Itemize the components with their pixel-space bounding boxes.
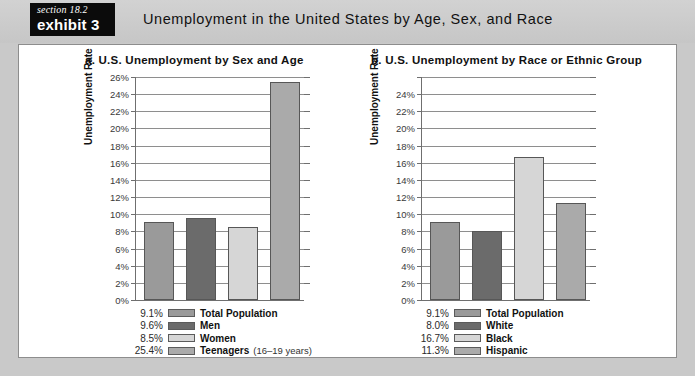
axis-tick-right <box>590 283 596 284</box>
legend-label: Women <box>200 333 236 344</box>
chart-b-y-axis-label: Unemployment Rate <box>369 131 380 145</box>
legend-item: 25.4%Teenagers(16–19 years) <box>123 345 312 357</box>
axis-tick-right <box>304 214 310 215</box>
gridline <box>422 111 590 112</box>
legend-value: 9.1% <box>123 308 163 319</box>
y-axis-tick-label: 6% <box>115 243 129 254</box>
page-title: Unemployment in the United States by Age… <box>143 11 553 27</box>
y-axis-tick-label: 14% <box>110 174 129 185</box>
legend-swatch <box>168 322 195 330</box>
axis-tick-right <box>590 77 596 78</box>
legend-item: 9.1%Total Population <box>123 307 312 319</box>
legend-swatch <box>168 309 195 317</box>
gridline <box>422 146 590 147</box>
y-axis-tick-label: 24% <box>396 89 415 100</box>
axis-tick-right <box>590 180 596 181</box>
axis-tick <box>417 146 422 147</box>
legend-value: 11.3% <box>409 345 449 356</box>
axis-tick-right <box>590 231 596 232</box>
chart-a: a. U.S. Unemployment by Sex and Age Unem… <box>63 45 393 357</box>
axis-tick <box>417 266 422 267</box>
axis-tick-right <box>304 94 310 95</box>
axis-tick <box>131 94 136 95</box>
gridline <box>422 77 590 78</box>
axis-tick-right <box>304 163 310 164</box>
legend-note: (16–19 years) <box>253 345 312 356</box>
y-axis-tick-label: 2% <box>401 277 415 288</box>
y-axis-tick-label: 22% <box>110 106 129 117</box>
axis-tick <box>131 283 136 284</box>
legend-value: 8.5% <box>123 333 163 344</box>
axis-tick-right <box>590 128 596 129</box>
axis-tick <box>131 111 136 112</box>
exhibit-badge: section 18.2 exhibit 3 <box>30 3 115 36</box>
axis-tick-right <box>590 266 596 267</box>
gridline <box>422 163 590 164</box>
axis-tick-right <box>590 197 596 198</box>
legend-swatch <box>168 347 195 355</box>
legend-value: 25.4% <box>123 345 163 356</box>
axis-tick-right <box>304 77 310 78</box>
bar-black <box>514 157 544 300</box>
y-axis-tick-label: 12% <box>110 192 129 203</box>
axis-tick <box>417 283 422 284</box>
legend-swatch <box>454 334 481 342</box>
legend-swatch <box>454 322 481 330</box>
y-axis-tick-label: 14% <box>396 174 415 185</box>
axis-tick <box>131 128 136 129</box>
axis-tick-right <box>304 197 310 198</box>
legend-item: 9.1%Total Population <box>409 307 564 319</box>
chart-b-title: b. U.S. Unemployment by Race or Ethnic G… <box>371 54 642 66</box>
bar-total-population <box>430 222 460 300</box>
y-axis-tick-label: 0% <box>401 295 415 306</box>
badge-exhibit-label: exhibit 3 <box>37 16 109 33</box>
legend-item: 16.7%Black <box>409 332 564 344</box>
bar-hispanic <box>556 203 586 300</box>
legend-item: 9.6%Men <box>123 320 312 332</box>
axis-tick <box>131 214 136 215</box>
chart-b-plot-area: 0%2%4%6%8%10%12%14%16%18%20%22%24% <box>421 77 590 301</box>
legend-label: Total Population <box>200 308 278 319</box>
axis-tick <box>417 163 422 164</box>
chart-a-title: a. U.S. Unemployment by Sex and Age <box>85 54 304 66</box>
legend-label: Total Population <box>486 308 564 319</box>
axis-tick <box>417 214 422 215</box>
y-axis-tick-label: 8% <box>115 226 129 237</box>
legend-item: 8.5%Women <box>123 332 312 344</box>
legend-value: 8.0% <box>409 320 449 331</box>
header-band: section 18.2 exhibit 3 Unemployment in t… <box>0 0 695 43</box>
legend-value: 9.6% <box>123 320 163 331</box>
y-axis-tick-label: 2% <box>115 277 129 288</box>
gridline <box>422 94 590 95</box>
legend-swatch <box>168 334 195 342</box>
y-axis-tick-label: 16% <box>396 157 415 168</box>
axis-tick <box>417 128 422 129</box>
gridline <box>136 77 304 78</box>
y-axis-tick-label: 20% <box>110 123 129 134</box>
badge-section-label: section 18.2 <box>37 4 109 16</box>
axis-tick <box>417 300 422 301</box>
gridline <box>422 128 590 129</box>
bar-white <box>472 231 502 300</box>
axis-tick <box>417 77 422 78</box>
y-axis-tick-label: 18% <box>396 140 415 151</box>
y-axis-tick-label: 6% <box>401 243 415 254</box>
legend-label: Teenagers <box>200 345 249 356</box>
axis-tick-right <box>590 94 596 95</box>
y-axis-tick-label: 26% <box>110 72 129 83</box>
axis-tick-right <box>590 111 596 112</box>
bar-women <box>228 227 258 300</box>
legend-item: 11.3%Hispanic <box>409 345 564 357</box>
y-axis-tick-label: 4% <box>401 260 415 271</box>
chart-a-plot-area: 0%2%4%6%8%10%12%14%16%18%20%22%24%26% <box>135 77 304 301</box>
axis-tick <box>417 249 422 250</box>
y-axis-tick-label: 10% <box>396 209 415 220</box>
chart-b: b. U.S. Unemployment by Race or Ethnic G… <box>349 45 679 357</box>
bar-men <box>186 218 216 300</box>
axis-tick <box>417 111 422 112</box>
y-axis-tick-label: 0% <box>115 295 129 306</box>
axis-tick-right <box>590 249 596 250</box>
y-axis-tick-label: 20% <box>396 123 415 134</box>
axis-tick <box>131 249 136 250</box>
legend-value: 9.1% <box>409 308 449 319</box>
